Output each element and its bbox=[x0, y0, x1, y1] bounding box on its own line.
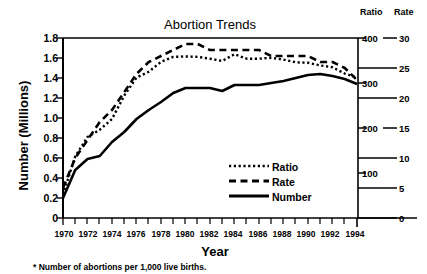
series-line-number bbox=[63, 74, 357, 198]
data-series-layer bbox=[63, 44, 357, 198]
series-line-rate bbox=[63, 44, 357, 188]
x-axis-ticks bbox=[63, 218, 357, 227]
legend-swatches bbox=[229, 166, 269, 196]
chart-plot-svg bbox=[0, 0, 427, 274]
chart-figure: Abortion Trends Number (Millions) Year *… bbox=[0, 0, 427, 274]
ratio-axis-ticks bbox=[358, 38, 366, 173]
